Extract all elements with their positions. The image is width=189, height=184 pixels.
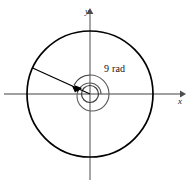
diagram-canvas: y x [0,0,189,184]
y-axis-label: y [84,6,89,16]
angle-diagram-figure: y x 9 rad [0,0,189,184]
terminal-ray [33,68,90,94]
x-axis-label: x [177,96,182,106]
angle-measure-label: 9 rad [104,63,125,74]
